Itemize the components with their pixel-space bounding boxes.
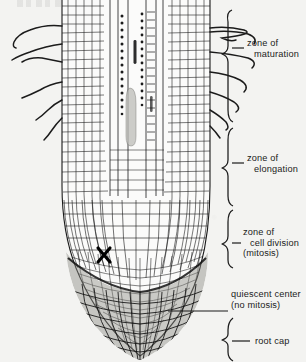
- label-line: (mitosis): [243, 248, 299, 259]
- label-zone-of-elongation: zone of elongation: [247, 153, 298, 174]
- figure-canvas: zone of maturation zone of elongation zo…: [0, 0, 306, 362]
- label-line: zone of: [247, 38, 299, 49]
- label-line: cell division: [243, 238, 299, 249]
- bracket-cell-division: [222, 210, 233, 268]
- label-line: maturation: [247, 49, 299, 60]
- label-line: zone of: [247, 153, 298, 164]
- root-hairs-left: [12, 26, 62, 141]
- label-line: zone of: [243, 227, 299, 238]
- label-zone-of-maturation: zone of maturation: [247, 38, 299, 59]
- label-line: (no mitosis): [231, 300, 301, 311]
- bracket-root-cap: [222, 318, 233, 361]
- label-line: root cap: [255, 336, 289, 347]
- label-line: elongation: [247, 164, 298, 175]
- bracket-elongation: [222, 128, 233, 206]
- label-root-cap: root cap: [255, 336, 289, 347]
- label-zone-of-cell-division: zone of cell division (mitosis): [243, 227, 299, 259]
- label-quiescent-center: quiescent center (no mitosis): [231, 289, 301, 310]
- label-line: quiescent center: [231, 289, 301, 300]
